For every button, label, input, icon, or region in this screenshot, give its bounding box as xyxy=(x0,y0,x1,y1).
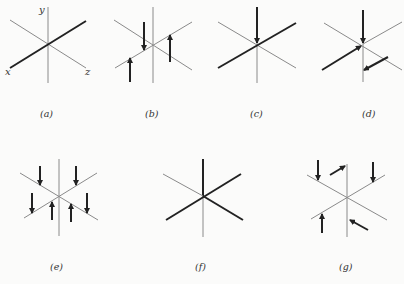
caption-a: (a) xyxy=(40,108,53,119)
panel-g: (g) xyxy=(307,160,387,272)
z-axis-upper xyxy=(163,174,203,196)
caption-d: (d) xyxy=(362,108,376,119)
panel-e: (e) xyxy=(20,159,98,272)
caption-g: (g) xyxy=(339,261,353,272)
caption-b: (b) xyxy=(145,108,159,119)
panel-d: (d) xyxy=(322,10,402,119)
panel-b: (b) xyxy=(114,7,192,119)
arrow-x-inward xyxy=(322,46,361,70)
z-axis-label: z xyxy=(84,66,91,77)
panel-a: y x z (a) xyxy=(5,4,91,119)
y-axis-label: y xyxy=(38,4,45,15)
panel-f: (f) xyxy=(163,159,243,272)
x-axis-upper xyxy=(363,22,402,44)
z-axis-lower xyxy=(203,196,243,220)
panel-c: (c) xyxy=(218,7,296,119)
caption-c: (c) xyxy=(250,108,263,119)
arrow-x-offset xyxy=(364,57,388,70)
caption-f: (f) xyxy=(195,261,206,272)
caption-e: (e) xyxy=(50,261,63,272)
arrow-oblique xyxy=(350,220,368,230)
figure-canvas: y x z (a) (b) (c) (d) xyxy=(0,0,404,284)
arrow-oblique xyxy=(330,166,345,175)
x-axis-label: x xyxy=(5,66,11,77)
